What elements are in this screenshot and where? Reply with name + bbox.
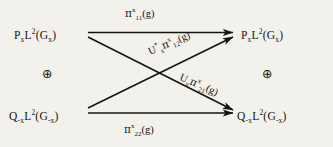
node-bottom-left-base: Q [9,110,18,122]
node-bottom-right-base: Q [237,110,246,122]
label-top-pi: π [125,7,132,19]
node-top-left-close: ) [52,29,56,41]
arrow-label-bottom-horizontal: πx22(g) [124,122,154,138]
node-bottom-right-close: ) [283,110,287,122]
node-top-left-group: (G [36,29,49,41]
label-bottom-pi: π [124,123,131,135]
node-bottom-right-group: (G [263,110,276,122]
node-top-right-space: L [252,29,259,41]
direct-sum-icon-left: ⊕ [42,66,52,81]
commutative-diagram: PxL2(Gx) PxL2(Gx) Q-xL2(G-x) Q-xL2(G-x) … [0,0,333,147]
node-bottom-right-group-sub: -x [276,116,283,125]
label-bottom-arg: (g) [141,124,153,135]
label-top-arg: (g) [142,8,154,19]
node-bottom-left-group: (G [35,110,48,122]
node-top-left-base: P [14,29,21,41]
node-bottom-right: Q-xL2(G-x) [237,108,287,125]
node-top-right-group: (G [263,29,276,41]
node-bottom-left-group-sub: -x [48,116,55,125]
arrow-label-top-horizontal: πx11(g) [125,6,154,22]
node-top-left-space: L [25,29,32,41]
node-top-right: PxL2(Gx) [241,27,283,44]
node-bottom-left-close: ) [55,110,59,122]
node-top-right-base: P [241,29,248,41]
node-bottom-left: Q-xL2(G-x) [9,108,59,125]
node-top-left: PxL2(Gx) [14,27,56,44]
node-top-right-close: ) [279,29,283,41]
direct-sum-icon-right: ⊕ [262,66,272,81]
